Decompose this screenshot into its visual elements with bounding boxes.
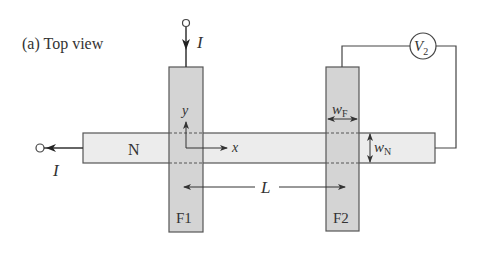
current-label-left: I bbox=[52, 161, 60, 180]
axis-x-label: x bbox=[231, 140, 239, 155]
f1-label: F1 bbox=[176, 210, 192, 226]
ferromagnet-f2-bar bbox=[326, 67, 359, 231]
nonmagnet-label: N bbox=[128, 141, 140, 158]
current-lead-left bbox=[36, 144, 83, 152]
distance-l-label: L bbox=[260, 178, 270, 197]
f2-label: F2 bbox=[333, 210, 349, 226]
current-label-top: I bbox=[196, 33, 204, 52]
figure-title: (a) Top view bbox=[22, 35, 104, 53]
ferromagnet-f1-bar bbox=[169, 67, 203, 232]
current-lead-top bbox=[182, 20, 190, 68]
axis-y-label: y bbox=[180, 103, 189, 118]
